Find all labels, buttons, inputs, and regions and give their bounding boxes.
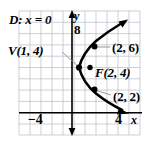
y-axis-tick-8: 8 xyxy=(74,23,80,36)
focus-label: F(2, 4) xyxy=(95,66,130,79)
point-focus xyxy=(87,65,92,70)
y-axis-label: y xyxy=(74,10,79,22)
point-lower xyxy=(92,87,98,93)
point-upper-label: (2, 6) xyxy=(112,41,139,54)
point-upper xyxy=(92,44,98,50)
point-lower-label: (2, 2) xyxy=(113,90,140,103)
point-vertex xyxy=(76,64,82,70)
x-axis-label: x xyxy=(131,114,137,126)
directrix-label: D: x = 0 xyxy=(9,13,51,26)
vertex-label: V(1, 4) xyxy=(8,44,43,57)
parabola-figure: D: x = 0 V(1, 4) (2, 6) F(2, 4) (2, 2) 8… xyxy=(0,0,152,147)
x-axis-tick-neg4: −4 xyxy=(28,113,43,127)
x-axis-tick-pos4: 4 xyxy=(115,113,122,127)
